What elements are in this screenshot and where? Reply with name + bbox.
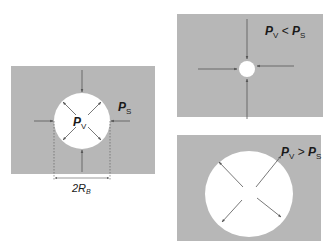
bubble-small bbox=[239, 61, 255, 77]
panel-shrinking: PV < PS bbox=[177, 14, 323, 119]
bubble-large bbox=[205, 151, 293, 237]
pressure-relation-label: PV < PS bbox=[265, 24, 305, 40]
bubble bbox=[54, 93, 110, 149]
bubble-pressure-diagram: PV PS 2RB PV < PS PV > PS bbox=[0, 0, 333, 251]
panel-expanding: PV > PS bbox=[177, 135, 321, 241]
pressure-relation-label: PV > PS bbox=[281, 145, 321, 161]
panel-equilibrium: PV PS 2RB bbox=[11, 66, 155, 195]
diameter-label: 2RB bbox=[71, 182, 91, 195]
